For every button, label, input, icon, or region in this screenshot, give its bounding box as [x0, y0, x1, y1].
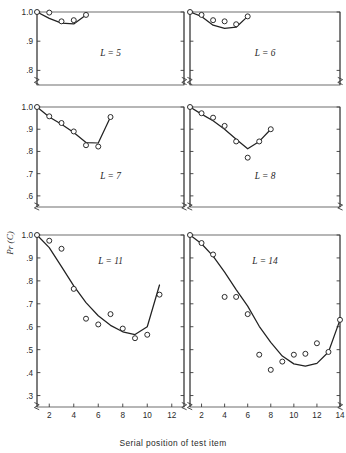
data-point [199, 241, 204, 246]
figure-panel-grid: 1.0.9.8L = 5L = 61.0.9.8.7.6L = 7L = 81.… [0, 0, 346, 453]
data-point [211, 252, 216, 257]
data-point [145, 332, 150, 337]
y-tick-label: .8 [26, 147, 33, 156]
x-tick-label: 10 [289, 411, 299, 420]
data-point [234, 22, 239, 27]
panel-label: L = 14 [251, 256, 278, 266]
panel-label: L = 7 [99, 171, 122, 181]
data-point [108, 312, 113, 317]
data-point [133, 336, 138, 341]
panel-l8: L = 8 [187, 105, 342, 211]
data-point [35, 10, 40, 15]
data-point [47, 114, 52, 119]
data-point [188, 10, 193, 15]
fitted-curve [37, 235, 160, 335]
data-point [245, 14, 250, 19]
data-point [188, 233, 193, 238]
x-tick-label: 8 [120, 411, 125, 420]
data-point [291, 352, 296, 357]
x-tick-label: 12 [312, 411, 322, 420]
fitted-curve [37, 107, 111, 143]
data-point [71, 18, 76, 23]
data-point [59, 19, 64, 24]
y-tick-label: 1.0 [22, 8, 34, 17]
y-axis-break [34, 403, 39, 410]
data-point [234, 294, 239, 299]
data-point [326, 349, 331, 354]
y-axis-break-right [182, 77, 187, 84]
data-point [96, 144, 101, 149]
y-tick-label: .8 [26, 277, 33, 286]
y-tick-label: .6 [26, 192, 33, 201]
y-axis-break [187, 203, 192, 210]
data-point [245, 312, 250, 317]
panel-label: L = 11 [97, 256, 123, 266]
y-tick-label: .9 [26, 125, 33, 134]
data-point [268, 127, 273, 132]
x-tick-label: 14 [335, 411, 345, 420]
y-tick-label: .7 [26, 170, 33, 179]
data-point [245, 155, 250, 160]
x-tick-label: 2 [199, 411, 204, 420]
data-point [199, 111, 204, 116]
y-tick-label: .8 [26, 66, 33, 75]
panel-label: L = 5 [99, 48, 121, 58]
x-tick-label: 6 [96, 411, 101, 420]
data-point [188, 105, 193, 110]
data-point [268, 367, 273, 372]
data-point [84, 12, 89, 17]
panel-frame [190, 107, 340, 207]
y-tick-label: .9 [26, 254, 33, 263]
y-tick-label: .9 [26, 37, 33, 46]
y-tick-label: .4 [26, 369, 33, 378]
y-axis-break [187, 403, 192, 410]
panel-l14: 2468101214L = 14 [187, 233, 345, 421]
x-tick-label: 4 [71, 411, 76, 420]
data-point [59, 246, 64, 251]
x-tick-label: 10 [143, 411, 153, 420]
data-point [338, 317, 343, 322]
x-tick-label: 12 [167, 411, 177, 420]
data-point [108, 115, 113, 120]
panel-l6: L = 6 [187, 10, 342, 86]
y-axis-title: Pr (C) [5, 231, 15, 256]
data-point [222, 19, 227, 24]
data-point [234, 139, 239, 144]
x-axis-title: Serial position of test item [119, 438, 226, 448]
data-point [35, 233, 40, 238]
y-axis-break-right [182, 203, 187, 210]
data-point [84, 316, 89, 321]
panel-label: L = 6 [254, 48, 276, 58]
y-tick-label: .6 [26, 323, 33, 332]
data-point [211, 115, 216, 120]
data-point [222, 294, 227, 299]
x-tick-label: 2 [47, 411, 52, 420]
chart-svg: 1.0.9.8L = 5L = 61.0.9.8.7.6L = 7L = 81.… [0, 0, 346, 453]
panel-l7: 1.0.9.8.7.6L = 7 [22, 103, 187, 210]
data-point [303, 351, 308, 356]
x-tick-label: 8 [268, 411, 273, 420]
y-axis-break-right [338, 77, 343, 84]
data-point [257, 352, 262, 357]
data-point [84, 143, 89, 148]
data-point [47, 10, 52, 15]
panel-label: L = 8 [254, 171, 276, 181]
data-point [314, 341, 319, 346]
y-tick-label: .7 [26, 300, 33, 309]
data-point [47, 238, 52, 243]
y-tick-label: 1.0 [22, 103, 34, 112]
data-point [257, 139, 262, 144]
data-point [157, 292, 162, 297]
data-point [199, 12, 204, 17]
x-tick-label: 4 [222, 411, 227, 420]
y-axis-break-right [338, 203, 343, 210]
panel-l11: 1.0.9.8.7.6.5.4.324681012L = 11 [22, 231, 187, 420]
y-tick-label: .5 [26, 346, 33, 355]
data-point [120, 326, 125, 331]
data-point [96, 322, 101, 327]
data-point [222, 123, 227, 128]
x-tick-label: 6 [245, 411, 250, 420]
data-point [35, 105, 40, 110]
y-tick-label: 1.0 [22, 231, 34, 240]
y-axis-break [34, 77, 39, 84]
